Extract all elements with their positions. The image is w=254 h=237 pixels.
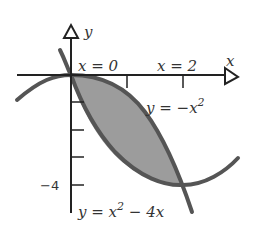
annotation-x-equals-0: x = 0 [78, 57, 119, 75]
x-axis-label: x [226, 52, 235, 70]
area-between-curves-diagram: y x −4 x = 0 x = 2 y = −x2 y = x2 − 4x [0, 0, 254, 237]
x-axis-arrow-icon [225, 68, 238, 84]
y-axis-label: y [83, 23, 93, 41]
y-axis-arrow-icon [64, 25, 78, 38]
label-curve-neg-x-squared: y = −x2 [145, 96, 205, 117]
y-tick-label-neg4: −4 [40, 178, 59, 193]
annotation-x-equals-2: x = 2 [157, 57, 197, 75]
label-curve-x-squared-minus-4x: y = x2 − 4x [77, 200, 165, 221]
